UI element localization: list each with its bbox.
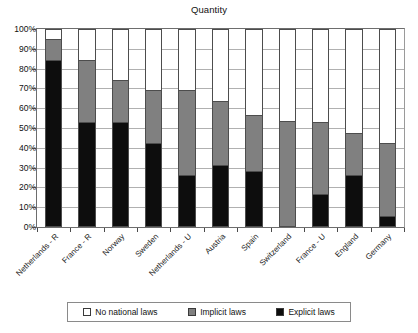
bar-segment-explicit-laws[interactable] — [213, 165, 228, 226]
bar-segment-implicit-laws[interactable] — [280, 121, 295, 226]
black-square-icon — [276, 308, 284, 316]
legend-item[interactable]: Explicit laws — [276, 307, 334, 317]
x-axis-labels: Netherlands - RFrance - RNorwaySwedenNet… — [0, 232, 418, 294]
bar-segment-explicit-laws[interactable] — [313, 194, 328, 226]
bar-segment-no-national-laws[interactable] — [345, 29, 362, 227]
bar-segment-explicit-laws[interactable] — [246, 171, 261, 226]
bar-segment-no-national-laws[interactable] — [145, 29, 162, 227]
bar-segment-no-national-laws[interactable] — [78, 29, 95, 227]
bar-segment-no-national-laws[interactable] — [45, 29, 62, 227]
bar-segment-no-national-laws[interactable] — [379, 29, 396, 227]
bar-group[interactable] — [178, 29, 195, 227]
bar-segment-explicit-laws[interactable] — [79, 122, 94, 226]
bar-segment-explicit-laws[interactable] — [380, 216, 395, 226]
y-axis: 100%90%80%70%60%50%40%30%20%10%0% — [0, 28, 36, 228]
bar-segment-explicit-laws[interactable] — [113, 122, 128, 226]
bar-group[interactable] — [45, 29, 62, 227]
bar-segment-explicit-laws[interactable] — [46, 60, 61, 226]
white-square-icon — [83, 308, 91, 316]
bar-group[interactable] — [245, 29, 262, 227]
bar-group[interactable] — [112, 29, 129, 227]
legend-label: No national laws — [95, 307, 157, 317]
bar-segment-no-national-laws[interactable] — [279, 29, 296, 227]
bar-group[interactable] — [312, 29, 329, 227]
bar-segment-no-national-laws[interactable] — [112, 29, 129, 227]
bar-segment-explicit-laws[interactable] — [346, 175, 361, 226]
bar-series-group — [37, 29, 404, 227]
bar-group[interactable] — [345, 29, 362, 227]
bar-segment-no-national-laws[interactable] — [178, 29, 195, 227]
chart-title: Quantity — [0, 4, 418, 15]
gray-square-icon — [188, 308, 196, 316]
legend-item[interactable]: No national laws — [83, 307, 157, 317]
bar-group[interactable] — [279, 29, 296, 227]
bar-group[interactable] — [78, 29, 95, 227]
legend-label: Implicit laws — [200, 307, 246, 317]
bar-segment-implicit-laws[interactable] — [380, 143, 395, 226]
bar-segment-no-national-laws[interactable] — [212, 29, 229, 227]
bar-segment-explicit-laws[interactable] — [146, 143, 161, 226]
bar-group[interactable] — [212, 29, 229, 227]
bar-group[interactable] — [379, 29, 396, 227]
bar-segment-no-national-laws[interactable] — [312, 29, 329, 227]
legend-label: Explicit laws — [288, 307, 334, 317]
legend-item[interactable]: Implicit laws — [188, 307, 246, 317]
chart-legend: No national lawsImplicit lawsExplicit la… — [67, 302, 351, 322]
bar-group[interactable] — [145, 29, 162, 227]
bar-segment-explicit-laws[interactable] — [179, 175, 194, 226]
bar-segment-no-national-laws[interactable] — [245, 29, 262, 227]
chart-container: Quantity 100%90%80%70%60%50%40%30%20%10%… — [0, 0, 418, 333]
